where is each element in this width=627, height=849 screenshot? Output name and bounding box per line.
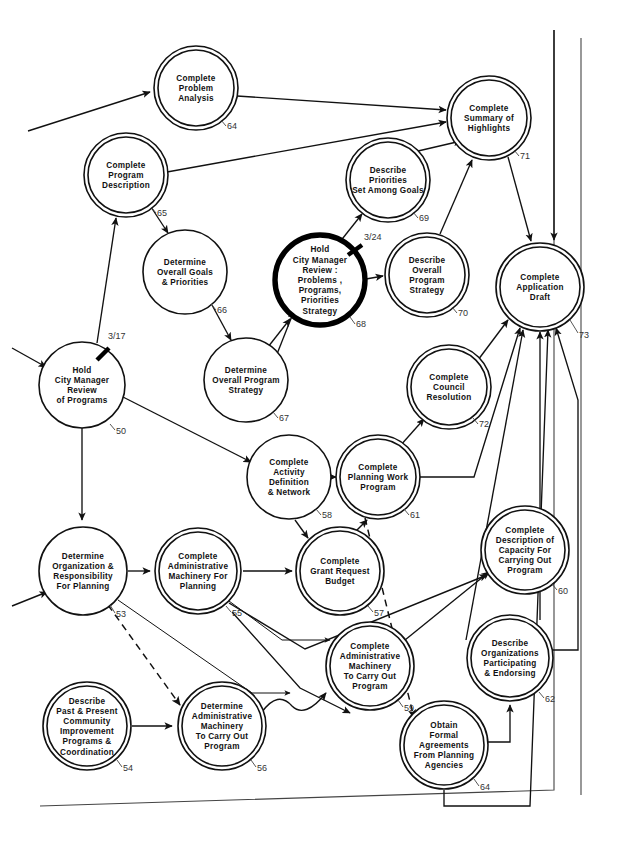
node-number: 60 — [558, 586, 568, 596]
milestone-date-label: 3/17 — [108, 331, 126, 341]
node-number: 68 — [356, 319, 366, 329]
node-62-describe[interactable]: DescribeOrganizationsParticipating& Endo… — [467, 615, 555, 704]
node-59-complete[interactable]: CompleteAdministrativeMachineryTo Carry … — [326, 622, 414, 713]
node-60-complete[interactable]: CompleteDescription ofCapacity ForCarryi… — [481, 506, 569, 596]
node-number: 58 — [322, 510, 332, 520]
node-number-leader — [316, 509, 321, 515]
node-label: CompleteCouncilResolution — [427, 373, 472, 402]
node-67-determine[interactable]: DetermineOverall ProgramStrategy67 — [204, 338, 289, 423]
node-56-determine[interactable]: DetermineAdministrativeMachineryTo Carry… — [178, 682, 267, 773]
node-69-describe[interactable]: DescribePrioritiesSet Among Goals69 — [346, 138, 430, 223]
node-number-leader — [251, 760, 256, 767]
edge-71-to-73 — [508, 157, 531, 241]
node-71-complete[interactable]: CompleteSummary ofHighlights71 — [447, 76, 531, 161]
node-number: 54 — [123, 763, 133, 773]
edge-53-to-56-dashed — [108, 605, 180, 705]
node-number: 55 — [232, 608, 242, 618]
node-number: 64 — [227, 121, 237, 131]
node-label: CompleteSummary ofHighlights — [464, 104, 514, 133]
node-number: 61 — [410, 510, 420, 520]
node-number-leader — [398, 700, 403, 707]
node-number-leader — [368, 606, 373, 612]
node-70-describe[interactable]: DescribeOverallProgramStrategy70 — [385, 233, 469, 318]
milestone-marker-3-24: 3/24 — [348, 232, 382, 255]
node-number: 53 — [116, 609, 126, 619]
node-label: CompleteProgramDescription — [102, 161, 150, 190]
edge-68-to-70 — [366, 276, 383, 279]
node-73-complete[interactable]: CompleteApplicationDraft73 — [496, 243, 589, 340]
pert-network-diagram: CompleteProblemAnalysis64CompleteProgram… — [0, 0, 627, 849]
node-68-hold[interactable]: HoldCity ManagerReview :Problems ,Progra… — [275, 235, 366, 329]
node-number: 64 — [480, 782, 490, 792]
edge-into-68 — [268, 319, 290, 347]
node-57-complete[interactable]: CompleteGrant RequestBudget57 — [296, 527, 384, 618]
node-number-leader — [226, 606, 231, 612]
node-72-complete[interactable]: CompleteCouncilResolution72 — [407, 345, 491, 429]
node-number: 71 — [520, 151, 530, 161]
edge-72-to-73 — [478, 320, 508, 360]
node-number: 65 — [157, 208, 167, 218]
node-number-leader — [151, 207, 156, 213]
node-number: 70 — [458, 308, 468, 318]
edge-70-to-71 — [440, 160, 472, 234]
node-number: 73 — [579, 330, 589, 340]
node-number-leader — [273, 412, 278, 418]
node-label: CompleteActivityDefinition& Network — [268, 458, 311, 498]
node-55-complete[interactable]: CompleteAdministrativeMachinery ForPlann… — [155, 528, 242, 618]
node-label: DetermineOverall Goals& Priorities — [157, 258, 213, 287]
edge-50-to-65 — [97, 218, 116, 343]
node-number: 59 — [404, 703, 414, 713]
node-58-complete[interactable]: CompleteActivityDefinition& Network58 — [247, 435, 332, 520]
node-number-leader — [514, 150, 519, 156]
node-label: CompleteProblemAnalysis — [176, 74, 216, 103]
node-label: DescribeOverallProgramStrategy — [409, 256, 446, 296]
node-54-describe[interactable]: DescribePast & PresentCommunityImproveme… — [43, 682, 133, 773]
edge-61-to-72 — [400, 419, 424, 446]
node-number: 56 — [257, 763, 267, 773]
node-65-complete[interactable]: CompleteProgramDescription65 — [84, 133, 168, 218]
node-number-leader — [452, 307, 457, 313]
edge-64bot-to-62 — [488, 705, 510, 742]
node-50-hold[interactable]: HoldCity ManagerReviewof Programs50 — [39, 342, 126, 436]
edge-into-50 — [12, 348, 46, 367]
node-number-leader — [350, 317, 355, 324]
edge-58-to-57 — [295, 520, 308, 538]
node-number-leader — [404, 509, 409, 515]
node-number: 66 — [217, 305, 227, 315]
edge-64-to-71 — [237, 96, 446, 110]
node-number-leader — [570, 320, 578, 333]
node-number: 69 — [419, 213, 429, 223]
node-53-determine[interactable]: DetermineOrganization &ResponsibilityFor… — [39, 527, 127, 619]
node-number: 62 — [545, 694, 555, 704]
node-number: 57 — [374, 608, 384, 618]
node-64-complete[interactable]: CompleteProblemAnalysis64 — [154, 46, 238, 131]
node-number-leader — [117, 760, 122, 767]
node-number-leader — [539, 692, 544, 698]
node-number-leader — [110, 424, 115, 430]
node-number-leader — [413, 212, 418, 218]
edge-into-53 — [12, 592, 47, 606]
milestone-date-label: 3/24 — [364, 232, 382, 242]
node-number-leader — [221, 120, 226, 126]
diagram-canvas: CompleteProblemAnalysis64CompleteProgram… — [0, 0, 627, 849]
node-number: 50 — [116, 426, 126, 436]
edge-62-to-73 — [553, 328, 578, 650]
node-number: 72 — [479, 419, 489, 429]
edge-into-problem-analysis — [28, 92, 150, 131]
node-61-complete[interactable]: CompletePlanning WorkProgram61 — [336, 435, 420, 520]
node-number: 67 — [279, 413, 289, 423]
node-number-leader — [474, 779, 479, 786]
node-66-determine[interactable]: DetermineOverall Goals& Priorities66 — [143, 230, 227, 315]
node-64-obtain[interactable]: ObtainFormalAgreementsFrom PlanningAgenc… — [400, 701, 490, 792]
